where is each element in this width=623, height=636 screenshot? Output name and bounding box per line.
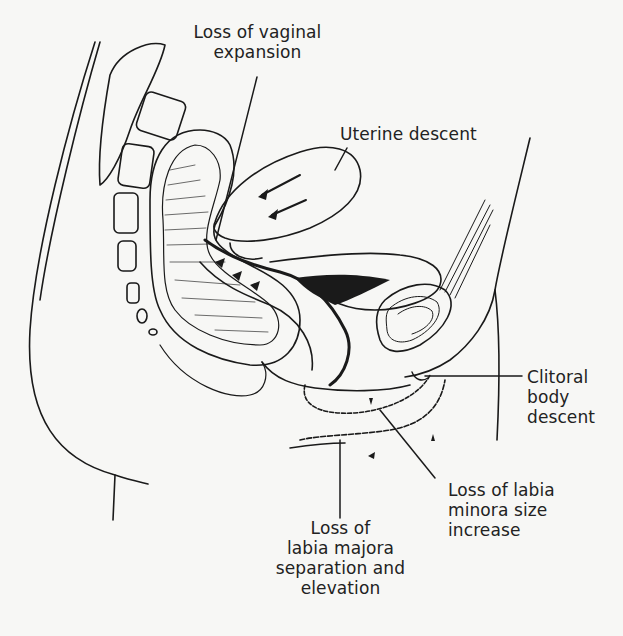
abdominal-muscle-fibres (440, 200, 493, 298)
label-clitoral-body-descent: Clitoral body descent (527, 367, 623, 427)
perineal-body (262, 362, 410, 391)
body-outline-back (30, 42, 148, 484)
vertebra-4 (118, 241, 136, 271)
label-loss-of-labia-minora-size-increase: Loss of labia minora size increase (448, 480, 588, 540)
leader-labia-minora (380, 410, 435, 478)
leader-uterine-descent (335, 148, 347, 170)
rectal-fat (160, 345, 266, 396)
uterine-descent-arrowheads (258, 189, 278, 220)
label-uterine-descent: Uterine descent (340, 124, 500, 144)
anterior-body-line (495, 290, 499, 440)
vertebra-2 (117, 143, 155, 189)
body-outline-back-inner (40, 42, 100, 300)
vertebra-3 (114, 193, 138, 233)
vertebra-6 (137, 309, 147, 323)
pubic-bone-outer (377, 284, 451, 351)
label-loss-of-vaginal-expansion: Loss of vaginal expansion (185, 22, 330, 62)
rectum-outer (150, 130, 300, 365)
leader-vaginal-expansion (216, 77, 257, 240)
thigh-line (113, 475, 115, 520)
labia-minora (304, 375, 430, 413)
abdominal-wall (405, 138, 530, 377)
uterine-descent-arrows (262, 175, 306, 215)
vertebra-7 (149, 329, 157, 335)
label-loss-of-labia-majora-separation: Loss of labia majora separation and elev… (263, 518, 418, 598)
labial-movement-arrows (368, 398, 435, 459)
labia-majora-outer (290, 443, 345, 448)
bladder-dark (295, 275, 390, 305)
vertebra-5 (127, 283, 139, 303)
anatomy-diagram: Loss of vaginal expansion Uterine descen… (0, 0, 623, 636)
